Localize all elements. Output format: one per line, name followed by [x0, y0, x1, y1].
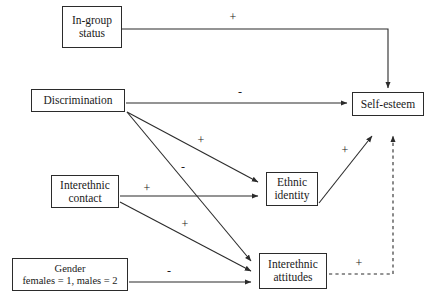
node-label-line: Ethnic	[277, 176, 307, 189]
edge-discrimination-to-ethnic-identity	[127, 112, 258, 182]
edge-sign-discrimination-ethnic-identity: +	[196, 134, 206, 146]
node-interethnic-contact[interactable]: Interethnic contact	[51, 175, 119, 208]
node-interethnic-attitudes[interactable]: Interethnic attitudes	[259, 253, 327, 289]
edge-interethnic-attitudes-to-self-esteem	[329, 136, 393, 274]
node-label-line: contact	[68, 192, 101, 205]
edge-sign-contact-interethnic-attitudes: +	[180, 218, 190, 230]
node-discrimination[interactable]: Discrimination	[31, 89, 125, 112]
edge-sign-gender-interethnic-attitudes: -	[164, 265, 174, 277]
path-diagram: In-group status Discrimination Self-este…	[0, 0, 428, 305]
node-self-esteem[interactable]: Self-esteem	[352, 92, 424, 116]
node-label-line: females = 1, males = 2	[22, 275, 117, 287]
edge-sign-ethnic-identity-self-esteem: +	[340, 144, 350, 156]
node-label-line: Interethnic	[268, 258, 318, 271]
node-label-line: identity	[274, 189, 309, 202]
node-gender[interactable]: Gender females = 1, males = 2	[12, 258, 128, 291]
node-in-group-status[interactable]: In-group status	[62, 6, 122, 48]
node-label-line: Gender	[55, 263, 86, 275]
node-label-line: Self-esteem	[361, 98, 415, 111]
edge-sign-interethnic-attitudes-self-esteem: +	[354, 257, 364, 269]
node-label-line: status	[79, 27, 105, 40]
edge-group	[120, 29, 393, 282]
node-label-line: Discrimination	[44, 94, 113, 107]
edge-interethnic-contact-to-interethnic-attitudes	[120, 202, 251, 271]
node-label-line: In-group	[72, 14, 112, 27]
node-label-line: attitudes	[274, 271, 313, 284]
node-ethnic-identity[interactable]: Ethnic identity	[266, 172, 318, 206]
edge-sign-discrimination-interethnic-attitudes: -	[178, 161, 188, 173]
edge-sign-discrimination-self-esteem: -	[235, 86, 245, 98]
edge-sign-contact-ethnic-identity: +	[142, 182, 152, 194]
edge-in-group-status-to-self-esteem	[122, 29, 388, 88]
edge-sign-in-group-status: +	[228, 11, 238, 23]
node-label-line: Interethnic	[60, 179, 110, 192]
